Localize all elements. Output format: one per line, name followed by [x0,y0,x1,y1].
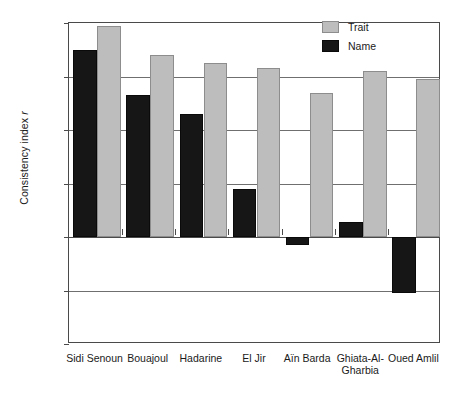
legend-item-trait[interactable]: Trait [322,19,376,35]
bar-trait-0 [97,26,121,237]
legend-swatch-name [322,40,339,52]
gridline [69,291,439,292]
bar-trait-1 [150,55,174,237]
bar-name-0 [73,50,97,237]
x-axis-tick-mark [335,229,336,235]
bar-name-6 [392,237,416,293]
legend-swatch-trait [322,21,339,33]
chart-legend: TraitName [322,19,376,57]
y-axis-tick-mark [64,184,69,185]
bar-name-4 [286,237,310,245]
y-axis-tick-mark [64,291,69,292]
bar-chart-figure: Consistency index r 0.80.60.40.2-0.0-0.2… [0,0,456,397]
x-axis-tick-mark [228,229,229,235]
plot-area [68,22,440,343]
legend-label: Trait [348,21,369,33]
bar-trait-2 [204,63,228,237]
y-axis-title-text: Consistency index [18,118,30,205]
bar-trait-3 [257,68,281,237]
y-axis-tick-mark [64,23,69,24]
y-axis-tick-mark [64,344,69,345]
y-axis-tick-mark [64,130,69,131]
x-axis-tick-mark [388,229,389,235]
legend-item-name[interactable]: Name [322,38,376,54]
x-axis-tick-mark [175,229,176,235]
x-axis-label-6: Oued Amlil [379,352,448,364]
y-axis-tick-mark [64,77,69,78]
bar-name-3 [233,189,257,237]
y-axis-title: Consistency index r [18,48,30,268]
bar-trait-4 [310,93,334,237]
bar-trait-5 [363,71,387,237]
bar-trait-6 [416,79,440,237]
y-axis-tick-mark [64,237,69,238]
bar-name-2 [180,114,204,237]
bar-name-1 [126,95,150,237]
x-axis-tick-mark [282,229,283,235]
y-axis-title-italic: r [18,111,30,115]
legend-label: Name [348,40,376,52]
bar-name-5 [339,222,363,237]
zero-line [69,237,439,238]
x-axis-tick-mark [122,229,123,235]
